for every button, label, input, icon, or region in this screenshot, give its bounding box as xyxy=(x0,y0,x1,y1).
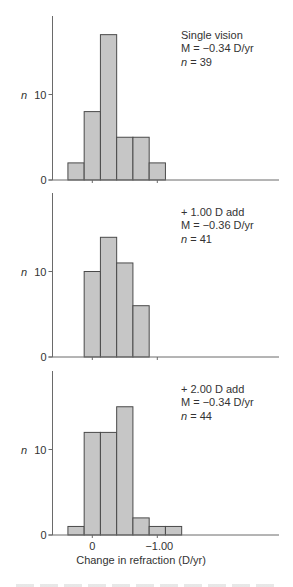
panel-3-annotation-n-value: = 44 xyxy=(187,410,212,422)
panel-1-annotation-n-value: = 39 xyxy=(187,56,212,68)
panel-1-bar xyxy=(100,35,116,180)
panel-3-x-axis-label: Change in refraction (D/yr) xyxy=(76,554,206,566)
panel-2-annotation-group: + 1.00 D add xyxy=(181,206,244,218)
panel-2-annotation-n: n = 41 xyxy=(181,233,212,245)
panel-1-y-tick-label: 0 xyxy=(40,174,46,186)
panel-1-y-tick-label: 10 xyxy=(34,89,46,101)
panel-3-bar xyxy=(117,407,133,535)
panel-2-y-axis-label: n xyxy=(21,266,27,278)
panel-3-y-tick-label: 10 xyxy=(34,444,46,456)
panel-1-bar xyxy=(117,137,133,180)
panel-3-annotation-n: n = 44 xyxy=(181,410,212,422)
panel-3-annotation-group: + 2.00 D add xyxy=(181,383,244,395)
panel-2-y-tick-label: 0 xyxy=(40,351,46,363)
panel-3-y-tick-label: 0 xyxy=(40,529,46,541)
panel-2-bar xyxy=(100,237,116,357)
panel-1-annotation-n: n = 39 xyxy=(181,56,212,68)
panel-3-x-tick-label: 0 xyxy=(89,540,95,552)
panel-3-bar xyxy=(165,526,181,535)
panel-2-bar xyxy=(133,306,149,357)
panel-3-bar xyxy=(149,526,165,535)
panel-3-y-axis-label: n xyxy=(21,444,27,456)
panel-3-bar xyxy=(100,432,116,535)
panel-2-y-tick-label: 10 xyxy=(34,266,46,278)
panel-3-bar xyxy=(84,432,100,535)
panel-1-annotation-group: Single vision xyxy=(181,29,243,41)
panel-3-bar xyxy=(68,526,84,535)
panel-2-bar xyxy=(117,263,133,357)
panel-1-y-axis-label: n xyxy=(21,89,27,101)
panel-3-bar xyxy=(133,518,149,535)
panel-1-bar xyxy=(84,112,100,180)
histogram-figure: 010nSingle visionM = −0.34 D/yrn = 39010… xyxy=(0,0,293,587)
panel-2-bar xyxy=(84,272,100,358)
panel-2-annotation-mean: M = −0.36 D/yr xyxy=(181,219,254,231)
panel-1-bar xyxy=(149,163,165,180)
panel-2-annotation-n-value: = 41 xyxy=(187,233,212,245)
panel-1-annotation-mean: M = −0.34 D/yr xyxy=(181,42,254,54)
panel-1-bar xyxy=(68,163,84,180)
panel-1-bar xyxy=(133,137,149,180)
panel-3-x-tick-label: −1.00 xyxy=(145,540,173,552)
panel-3-annotation-mean: M = −0.34 D/yr xyxy=(181,396,254,408)
